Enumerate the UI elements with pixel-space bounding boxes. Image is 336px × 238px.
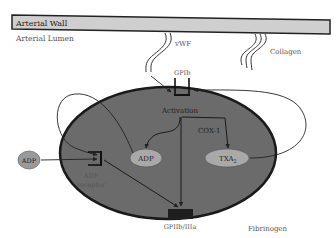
arterial-wall: Arterial Wall [12, 15, 330, 34]
fibrinogen-label: Fibrinogen [248, 225, 288, 233]
cox1-label: COX-1 [198, 127, 221, 135]
adp-receptor-label-line2: receptor [77, 181, 106, 189]
gpiibiiia-label: GPIIb/IIIa [164, 223, 197, 231]
platelet-activation-diagram: Arterial Wall Arterial Lumen vWF Collage… [0, 0, 336, 238]
vwf-strands [146, 33, 171, 72]
vwf-label: vWF [174, 40, 191, 48]
arterial-lumen-label: Arterial Lumen [15, 34, 74, 43]
gpib-label: GPIb [174, 69, 190, 77]
activation-label: Activation [161, 107, 198, 115]
adp-receptor-label-line1: ADP [83, 172, 99, 180]
collagen-strands [241, 34, 266, 70]
collagen-label: Collagen [270, 48, 302, 56]
adp-inner-label: ADP [137, 155, 154, 163]
adp-outer-label: ADP [21, 157, 37, 165]
arterial-wall-label: Arterial Wall [15, 19, 68, 28]
gpiibiiia-receptor [168, 209, 193, 219]
